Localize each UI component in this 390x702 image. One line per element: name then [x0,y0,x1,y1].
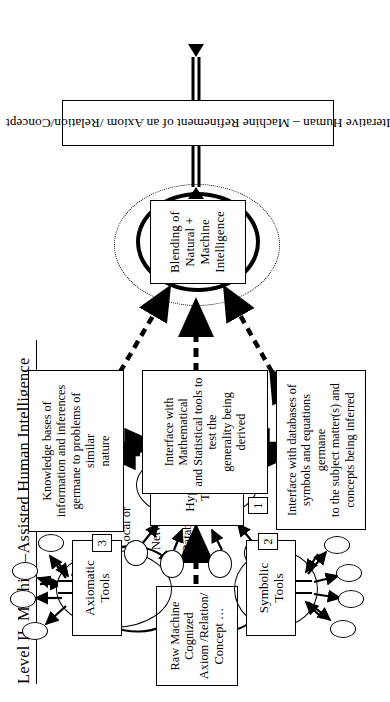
callout-3-line1: Knowledge bases of [40,401,55,501]
callout-2-number: 2 [261,538,276,544]
callout-knowledge-bases: Knowledge bases of information and infer… [28,370,124,532]
symbolic-satellite-1 [330,620,356,638]
callout-1-line1: Interface with Mathematical [162,374,191,490]
symbolic-satellite-2 [338,590,364,608]
callout-2-line3: to the subject matter(s) and [328,383,343,517]
callout-hypothesis-interface: Interface with Mathematical and Statisti… [142,370,268,494]
axiomatic-satellite-1 [22,622,48,640]
raw-input-line1: Raw Machine Cognized [168,589,197,683]
symbolic-tools-cap [296,580,312,594]
axiomatic-satellite-4 [38,534,64,552]
hypothesis-satellite-1 [124,540,148,566]
callout-3-line2: information and inferences [54,385,69,517]
axiomatic-tools-line1: Axiomatic [82,560,97,616]
hypothesis-satellite-3 [208,550,232,578]
callout-3-marker: 3 [92,534,112,552]
axiomatic-satellite-2 [10,590,36,608]
blending-line2: Machine Intelligence [198,201,228,283]
callout-3-number: 3 [95,540,110,546]
callout-3-line4: nature [98,436,113,467]
callout-1-line3: generality being derived [220,374,249,490]
callout-2-line2: symbols and equations germane [299,374,328,526]
symbolic-tools-line2: Tools [271,573,286,602]
symbolic-tools-line1: Symbolic [256,563,271,614]
callout-1-number: 1 [251,502,266,508]
iterative-refinement-text: Iterative Human – Machine Refinement of … [6,115,390,131]
arrow-symbolic-to-blending [226,290,272,372]
callout-3-line3: germane to problems of similar [69,374,98,528]
callout-symbolic-interface: Interface with databases of symbols and … [276,370,366,530]
hypothesis-satellite-2 [160,550,184,578]
callout-1-marker: 1 [248,497,268,514]
iterative-refinement-bar: Iterative Human – Machine Refinement of … [62,100,334,146]
arrow-bar-output [188,44,204,102]
callout-1-line2: and Statistical tools to test the [191,374,220,490]
symbolic-satellite-3 [336,564,362,582]
blending-line1: Blending of Natural + [168,201,198,283]
blending-node[interactable]: Blending of Natural + Machine Intelligen… [150,200,246,284]
arrow-axiomatic-to-blending [120,290,168,372]
symbolic-tools-node[interactable]: Symbolic Tools [246,540,296,636]
raw-input-line2: Axiom /Relation/ Concept … [197,589,226,683]
callout-2-marker: 2 [258,533,278,550]
callout-2-line1: Interface with databases of [285,384,300,516]
axiomatic-satellite-3 [12,562,38,580]
symbolic-satellite-4 [324,536,350,554]
axiomatic-tools-node[interactable]: Axiomatic Tools [72,540,122,636]
callout-2-line4: concepts being inferred [343,392,358,507]
axiomatic-tools-line2: Tools [97,573,112,602]
